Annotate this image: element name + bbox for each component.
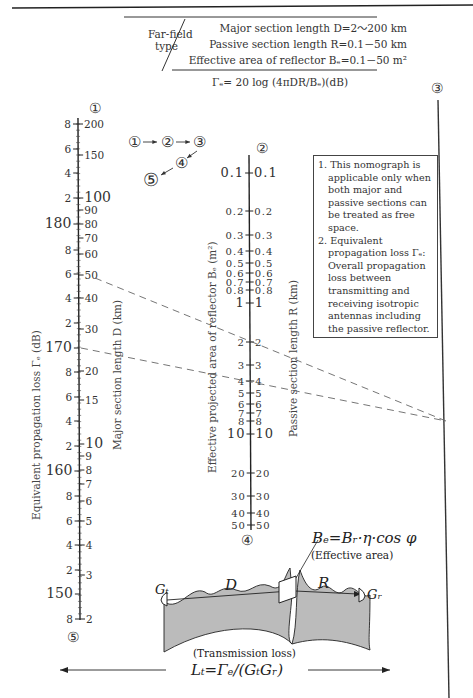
d-tick-label: 40	[85, 292, 98, 304]
label-d: D	[224, 576, 237, 594]
reflector-icon	[279, 576, 296, 603]
example-line-gamma	[81, 348, 446, 421]
r-tick-label: 20	[256, 468, 271, 479]
r-tick-label: 50	[256, 520, 271, 531]
d-tick-label: 7	[85, 478, 92, 490]
r-tick-label: 0.3	[254, 230, 273, 241]
terrain-passive	[292, 570, 370, 650]
r-tick-label: 30	[256, 491, 271, 502]
scale-2-bottom-marker: ④	[241, 532, 254, 548]
d-tick-label: 60	[85, 248, 98, 260]
gamma-tick-label: 2	[66, 440, 73, 452]
d-tick-label: 20	[85, 365, 98, 377]
scale-1: 2001501009080706050403020151098765432864…	[45, 100, 111, 645]
d-tick-label: 50	[85, 269, 98, 281]
loss-formula: Lₜ=Γₑ/(GₜGᵣ)	[190, 661, 283, 679]
transmission-caption: (Transmission loss)	[193, 647, 296, 659]
scale-3	[438, 100, 449, 698]
scale-1-marker: ①	[89, 100, 102, 116]
r-tick-label: 3	[255, 360, 262, 371]
d-tick-label: 70	[84, 232, 97, 244]
effective-area-caption: (Effective area)	[311, 549, 393, 561]
gamma-tick-label: 6	[65, 268, 72, 280]
r-tick-label: 0.2	[254, 206, 273, 217]
effective-area-formula: Bₑ=Bᵣ·η·cos φ	[311, 529, 417, 547]
d-tick-label: 150	[84, 149, 104, 161]
be-tick-label: 10	[227, 426, 246, 441]
label-r: R	[317, 574, 329, 592]
flow-step-5: ⑤	[143, 169, 159, 190]
be-tick-label: 0.1	[220, 165, 244, 180]
d-tick-label: 4	[86, 539, 93, 551]
gamma-tick-label: 6	[66, 515, 73, 527]
be-tick-label: 1	[236, 295, 245, 310]
d-tick-label: 15	[85, 394, 98, 406]
d-tick-label: 3	[86, 569, 93, 581]
r-tick-label: 10	[255, 426, 274, 441]
gamma-tick-label: 8	[65, 366, 72, 378]
gamma-tick-label: 4	[66, 415, 73, 427]
flow-step-1: ①	[128, 133, 141, 151]
d-tick-label: 200	[84, 118, 104, 130]
be-tick-label: 0.2	[225, 206, 244, 217]
be-tick-label: 40	[231, 508, 246, 519]
flow-step-2: ②	[161, 133, 174, 151]
d-tick-label: 10	[85, 435, 103, 451]
gamma-tick-label: 6	[65, 391, 72, 403]
gamma-tick-label: 180	[45, 215, 72, 231]
gamma-tick-label: 4	[65, 167, 72, 179]
r-tick-label: 0.1	[254, 165, 278, 180]
scale-3-axis	[438, 100, 449, 698]
d-tick-label: 100	[84, 189, 111, 205]
gamma-tick-label: 2	[66, 564, 73, 576]
gamma-tick-label: 8	[66, 490, 73, 502]
gamma-tick-label: 8	[66, 613, 73, 625]
gamma-tick-label: 8	[64, 118, 71, 130]
gamma-tick-label: 2	[65, 192, 72, 204]
scale-3-marker: ③	[431, 80, 444, 96]
r-tick-label: 4	[255, 376, 262, 387]
r-tick-label: 5	[255, 388, 262, 399]
r-tick-label: 40	[256, 508, 271, 519]
d-tick-label: 90	[84, 204, 97, 216]
gamma-tick-label: 8	[65, 244, 72, 256]
scale-1-bottom-marker: ⑤	[67, 629, 80, 645]
gamma-tick-label: 4	[65, 292, 72, 304]
be-tick-label: 30	[231, 491, 246, 502]
nomograph-canvas: 2001501009080706050403020151098765432864…	[0, 0, 473, 698]
scale-2: 0.10.10.20.20.30.30.40.40.50.50.60.60.70…	[220, 140, 277, 548]
d-tick-label: 8	[85, 464, 92, 476]
gamma-tick-label: 6	[64, 143, 71, 155]
d-tick-label: 2	[86, 613, 93, 625]
gamma-tick-label: 2	[65, 317, 72, 329]
d-tick-label: 6	[86, 495, 93, 507]
header-slash	[162, 19, 185, 71]
top-rule	[12, 5, 473, 8]
be-tick-label: 50	[231, 520, 246, 531]
be-tick-label: 20	[231, 468, 246, 479]
label-gt: Gₜ	[155, 582, 169, 597]
d-tick-label: 5	[86, 515, 93, 527]
be-tick-label: 4	[238, 376, 245, 387]
be-tick-label: 0.3	[226, 230, 245, 241]
gamma-tick-label: 150	[46, 585, 73, 601]
d-tick-label: 9	[85, 450, 92, 462]
example-line-d	[95, 278, 446, 421]
scale-2-marker: ②	[256, 140, 269, 156]
flow-diagram: ①②③④⑤	[128, 133, 206, 190]
be-tick-label: 3	[238, 360, 245, 371]
flow-step-4: ④	[175, 154, 188, 172]
gamma-tick-label: 170	[45, 339, 72, 355]
be-tick-label: 5	[238, 388, 245, 399]
r-tick-label: 0.4	[255, 246, 274, 257]
gamma-tick-label: 4	[66, 539, 73, 551]
r-tick-label: 1	[255, 295, 264, 310]
label-gr: Gᵣ	[367, 587, 382, 602]
d-tick-label: 30	[85, 323, 98, 335]
gamma-tick-label: 160	[46, 462, 73, 478]
d-tick-label: 80	[84, 218, 97, 230]
flow-step-3: ③	[193, 133, 206, 151]
be-tick-label: 0.4	[226, 246, 245, 257]
r-tick-label: 2	[255, 337, 262, 348]
